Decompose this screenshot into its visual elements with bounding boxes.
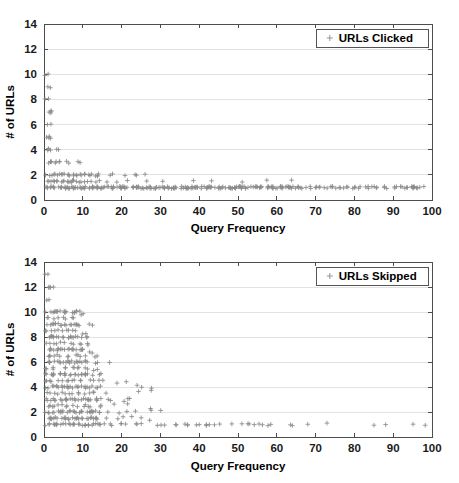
x-tick-label: 20: [115, 205, 128, 217]
y-tick-label: 0: [31, 431, 37, 443]
x-axis-title: Query Frequency: [191, 460, 286, 472]
y-tick-label: 12: [24, 281, 37, 293]
y-tick-label: 12: [24, 43, 37, 55]
y-axis-title: # of URLs: [4, 323, 16, 377]
x-tick-label: 90: [387, 205, 400, 217]
data-points-group: [43, 272, 428, 428]
x-tick-label: 50: [232, 205, 245, 217]
x-tick-label: 100: [422, 442, 441, 454]
y-tick-label: 14: [24, 18, 37, 30]
y-tick-label: 4: [31, 144, 38, 156]
x-tick-label: 70: [309, 205, 322, 217]
y-tick-label: 14: [24, 256, 37, 268]
x-tick-label: 0: [41, 442, 47, 454]
y-tick-label: 10: [24, 68, 37, 80]
plot-box: [44, 24, 432, 200]
legend-label: URLs Clicked: [339, 32, 413, 44]
x-tick-label: 10: [76, 442, 89, 454]
y-tick-label: 10: [24, 306, 37, 318]
plot-box: [44, 262, 432, 437]
x-tick-label: 30: [154, 205, 167, 217]
x-tick-label: 0: [41, 205, 47, 217]
chart-panel-urls-clicked: 010203040506070809010002468101214Query F…: [0, 0, 459, 240]
y-tick-label: 2: [31, 169, 37, 181]
x-tick-label: 80: [348, 442, 361, 454]
x-axis-title: Query Frequency: [191, 222, 286, 234]
x-tick-label: 40: [193, 205, 206, 217]
y-tick-label: 6: [31, 119, 37, 131]
scatter-plot-urls-skipped: 010203040506070809010002468101214Query F…: [0, 240, 459, 483]
data-points-group: [43, 72, 427, 191]
y-tick-label: 4: [31, 381, 38, 393]
scatter-plot-urls-clicked: 010203040506070809010002468101214Query F…: [0, 0, 459, 240]
y-tick-label: 6: [31, 356, 37, 368]
x-tick-label: 40: [193, 442, 206, 454]
x-tick-label: 90: [387, 442, 400, 454]
legend: URLs Skipped: [317, 267, 428, 285]
y-axis-title: # of URLs: [4, 85, 16, 139]
y-tick-label: 0: [31, 194, 37, 206]
y-tick-label: 2: [31, 406, 37, 418]
y-tick-label: 8: [31, 331, 38, 343]
x-tick-label: 50: [232, 442, 245, 454]
x-tick-label: 60: [270, 442, 283, 454]
x-tick-label: 100: [422, 205, 441, 217]
x-tick-label: 60: [270, 205, 283, 217]
svg-text:# of URLs: # of URLs: [4, 85, 16, 139]
figure-root: 010203040506070809010002468101214Query F…: [0, 0, 459, 483]
x-tick-label: 70: [309, 442, 322, 454]
legend-label: URLs Skipped: [339, 270, 417, 282]
x-tick-label: 80: [348, 205, 361, 217]
x-tick-label: 20: [115, 442, 128, 454]
x-tick-label: 30: [154, 442, 167, 454]
chart-panel-urls-skipped: 010203040506070809010002468101214Query F…: [0, 240, 459, 483]
svg-text:# of URLs: # of URLs: [4, 323, 16, 377]
x-tick-label: 10: [76, 205, 89, 217]
y-tick-label: 8: [31, 93, 38, 105]
legend: URLs Clicked: [317, 29, 428, 47]
